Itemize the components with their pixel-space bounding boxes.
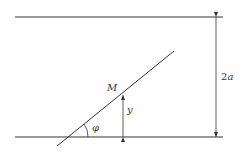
label-point-m: M <box>107 83 117 93</box>
label-y: y <box>127 105 133 115</box>
diagram: M y φ 2a <box>0 0 241 157</box>
label-2a: 2a <box>221 72 233 82</box>
needle-line <box>57 51 174 146</box>
label-angle-phi: φ <box>92 123 99 133</box>
diagram-graphics <box>0 0 241 157</box>
angle-arc <box>84 124 88 137</box>
